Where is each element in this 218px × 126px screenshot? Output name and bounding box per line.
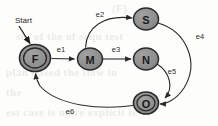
edge-e6-label: e6: [66, 107, 74, 116]
edge-e4[interactable]: e4: [158, 23, 204, 104]
edge-e4-path: [158, 23, 191, 104]
node-M-label: M: [85, 54, 94, 66]
graph-svg: e1 e2 e3 e4 e5 e6 Start: [0, 0, 218, 126]
edge-e3-label: e3: [112, 45, 120, 54]
node-O[interactable]: O: [134, 92, 159, 114]
start-marker: Start: [15, 16, 33, 44]
edge-e1[interactable]: e1: [52, 45, 75, 60]
state-diagram-canvas: (F) ses of the of sequ test plan based t…: [0, 0, 218, 126]
edge-e6-path: [36, 74, 134, 108]
edge-e2-label: e2: [96, 10, 104, 19]
node-N[interactable]: N: [134, 48, 159, 70]
edge-e5-label: e5: [168, 67, 176, 76]
node-F[interactable]: F: [20, 45, 51, 72]
node-F-label: F: [32, 53, 39, 65]
edge-e6[interactable]: e6: [36, 74, 134, 116]
node-M[interactable]: M: [78, 48, 103, 70]
edge-e1-path: [52, 59, 75, 60]
node-N-label: N: [142, 54, 150, 66]
edge-e3[interactable]: e3: [103, 45, 131, 60]
edge-e1-label: e1: [57, 45, 65, 54]
edge-e5[interactable]: e5: [157, 64, 176, 98]
start-label: Start: [15, 16, 33, 25]
node-O-label: O: [142, 98, 151, 110]
start-arrow-icon: [19, 26, 30, 44]
node-S[interactable]: S: [134, 8, 159, 30]
edge-e2[interactable]: e2: [86, 10, 133, 48]
node-S-label: S: [142, 14, 149, 26]
edge-e4-label: e4: [196, 32, 204, 41]
edge-e2-path: [86, 17, 133, 47]
